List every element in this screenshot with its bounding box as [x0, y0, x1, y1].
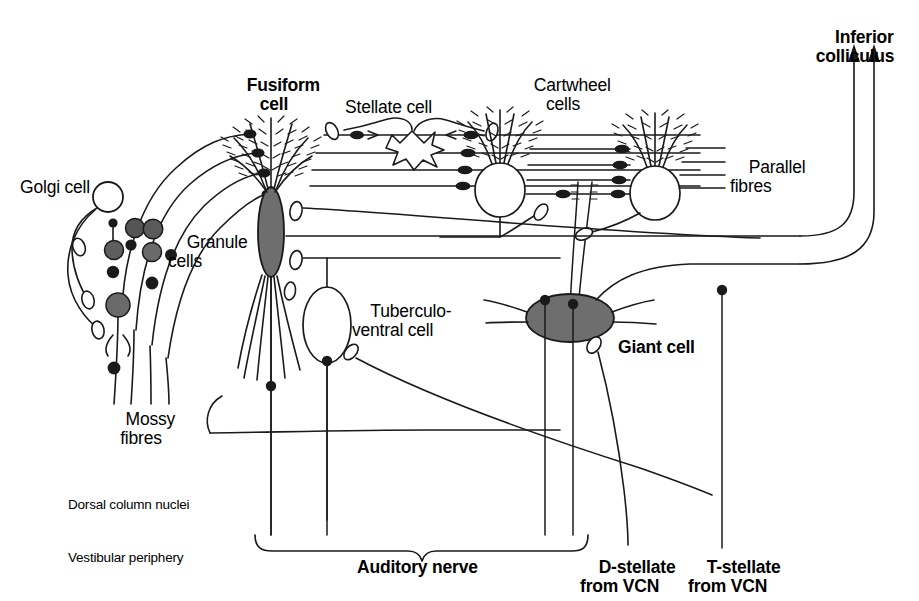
granule-claw-right: [123, 335, 130, 356]
cw1-axon-collateral: [500, 216, 534, 237]
label-giant-cell: Giant cell: [618, 338, 695, 358]
fusiform-basal-2: [257, 277, 268, 380]
fusiform-lateral-terminal-2: [288, 250, 303, 271]
stellate-terminal-right: [484, 122, 500, 143]
label-t-stellate: T-stellate from VCN: [688, 538, 781, 601]
inferior-colliculus-projections: [800, 60, 874, 264]
fusiform-basal-4: [274, 277, 285, 378]
giant-dend-r1: [612, 300, 654, 312]
mossy-source-item: Vestibular periphery: [68, 549, 189, 567]
ic-axon-2: [800, 60, 874, 264]
cartwheel-cell-2-soma: [630, 166, 680, 220]
giant-dend-l1: [484, 300, 527, 312]
golgi-cell-axon-2: [68, 210, 100, 330]
label-stellate-cell: Stellate cell: [345, 98, 432, 118]
golgi-terminal-3: [90, 320, 105, 340]
parallel-fibre-boutons-left: [350, 131, 364, 140]
dcn-circuit-diagram: Fusiform cell Stellate cell Cartwheel ce…: [0, 0, 919, 601]
cw1-terminal: [531, 201, 550, 222]
fusiform-lateral-terminal-1: [288, 201, 303, 222]
golgi-cell-axon-1: [72, 208, 97, 305]
cartwheel-cell-1-soma: [475, 163, 525, 217]
ic-axon-1: [800, 60, 854, 236]
stellate-axon-left: [344, 118, 412, 130]
giant-dendrite-spines: [571, 185, 598, 199]
fusiform-lateral-terminal-3: [283, 281, 296, 300]
label-cartwheel-cells: Cartwheel cells: [508, 56, 618, 134]
giant-dend-r2: [613, 322, 656, 324]
d-stellate-axon: [598, 352, 628, 545]
label-d-stellate: D-stellate from VCN: [580, 538, 675, 601]
stellate-cell: [323, 118, 500, 170]
label-parallel-fibres: Parallel fibres: [730, 138, 805, 216]
label-tuberculoventral-cell: Tuberculo- ventral cell: [352, 282, 451, 360]
proj-from-terminal-1: [303, 208, 760, 238]
giant-cell-axon: [596, 264, 800, 300]
parallel-fibres-leaders: [679, 148, 725, 188]
giant-cell: [484, 264, 800, 545]
label-golgi-cell: Golgi cell: [20, 178, 90, 198]
label-auditory-nerve: Auditory nerve: [357, 558, 478, 578]
label-inferior-colliculus: Inferior colliculus: [795, 8, 915, 86]
fusiform-cell-soma: [258, 187, 284, 277]
golgi-terminal-2: [80, 290, 96, 310]
label-mossy-fibres: Mossy fibres: [98, 390, 184, 468]
crossing-fibre-left: [210, 430, 560, 433]
stellate-cell-soma: [386, 131, 444, 170]
deep-layer-region: [207, 201, 800, 520]
crossing-fibre-left-hook: [207, 396, 222, 433]
granule-claw-left: [106, 335, 113, 356]
label-fusiform-cell: Fusiform cell: [222, 56, 326, 134]
tuberculoventral-cell-soma: [303, 287, 351, 363]
mossy-source-item: Dorsal column nuclei: [68, 496, 189, 514]
label-granule-cells: Granule cells: [168, 213, 248, 291]
tuberculoventral-axon: [356, 358, 712, 495]
giant-dend-l2: [486, 322, 528, 323]
mossy-fibre-source-list: Dorsal column nuclei Vestibular peripher…: [68, 460, 189, 601]
giant-cell-ascending-dendrites: [570, 182, 592, 310]
